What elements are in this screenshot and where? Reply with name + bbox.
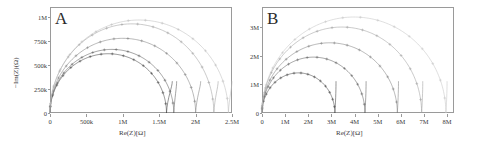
data-point-marker <box>331 26 334 29</box>
x-tick-label: 500k <box>80 118 93 125</box>
data-point-marker <box>325 58 328 61</box>
data-point-marker <box>79 60 82 63</box>
y-tick-label: 250k <box>28 85 47 92</box>
data-point-marker <box>144 19 147 22</box>
data-point-marker <box>211 98 214 101</box>
y-tick-label: 2M <box>240 52 259 59</box>
x-tick-mark <box>196 114 197 117</box>
data-point-marker <box>320 42 323 45</box>
x-tick-label: 2M <box>304 118 313 125</box>
data-point-marker <box>360 92 363 95</box>
data-point-marker <box>136 23 139 26</box>
data-point-marker <box>169 90 172 93</box>
x-tick-label: 5M <box>373 118 382 125</box>
data-point-marker <box>279 77 282 80</box>
data-point-marker <box>269 79 272 82</box>
data-point-marker <box>316 30 319 33</box>
y-tick-mark <box>48 89 51 90</box>
data-point-marker <box>111 52 114 55</box>
y-tick-label: 1M <box>28 13 47 20</box>
data-point-marker <box>395 101 398 104</box>
x-axis-title-b: Re(Z)[Ω] <box>336 129 363 137</box>
data-point-marker <box>89 55 92 58</box>
y-tick-mark <box>48 65 51 66</box>
x-tick-label: 0 <box>48 118 51 125</box>
data-point-marker <box>193 100 196 103</box>
data-point-marker <box>300 72 303 75</box>
y-tick-mark <box>48 17 51 18</box>
data-point-marker <box>226 97 229 100</box>
data-point-marker <box>293 72 296 75</box>
x-tick-mark <box>308 114 309 117</box>
data-point-marker <box>328 91 331 94</box>
x-tick-label: 1M <box>281 118 290 125</box>
data-point-marker <box>331 98 334 101</box>
x-tick-mark <box>355 114 356 117</box>
data-point-marker <box>222 80 225 83</box>
data-point-marker <box>375 34 378 37</box>
data-point-marker <box>335 61 338 64</box>
data-point-marker <box>287 63 290 66</box>
data-point-marker <box>356 83 359 86</box>
nyquist-tail <box>446 81 447 113</box>
x-tick-mark <box>447 114 448 117</box>
x-tick-mark <box>232 114 233 117</box>
data-point-marker <box>161 22 164 25</box>
panel-a: A 0250k500k750k1M 0500k1M1.5M2M2.5M −Im(… <box>0 0 239 143</box>
nyquist-tail <box>196 81 201 113</box>
x-tick-label: 3M <box>327 118 336 125</box>
data-point-marker <box>346 26 349 29</box>
data-point-marker <box>172 102 175 105</box>
nyquist-tail <box>422 81 423 113</box>
data-point-marker <box>127 19 130 22</box>
x-tick-label: 2.5M <box>225 118 239 125</box>
data-point-marker <box>103 48 106 51</box>
y-axis-title-a: −Im(Z)(Ω) <box>12 57 20 88</box>
nyquist-tail <box>166 81 172 113</box>
data-point-marker <box>110 23 113 26</box>
data-point-marker <box>214 64 217 67</box>
data-point-marker <box>302 36 305 39</box>
data-point-marker <box>157 81 160 84</box>
x-tick-label: 1M <box>118 118 127 125</box>
x-tick-label: 1.5M <box>152 118 166 125</box>
y-tick-mark <box>260 84 263 85</box>
x-tick-mark <box>50 114 51 117</box>
data-point-marker <box>295 50 298 53</box>
data-point-marker <box>122 54 125 57</box>
nyquist-tail <box>335 81 336 113</box>
data-point-marker <box>201 66 204 69</box>
nyquist-arc <box>262 17 446 113</box>
nyquist-tail <box>174 81 177 113</box>
data-point-marker <box>415 82 418 85</box>
data-point-marker <box>376 19 379 22</box>
data-point-marker <box>341 16 344 19</box>
data-point-marker <box>307 45 310 48</box>
data-point-marker <box>162 91 165 94</box>
data-point-marker <box>439 79 442 82</box>
data-point-marker <box>346 44 349 47</box>
x-tick-mark <box>86 114 87 117</box>
panel-b: B 01M2M3M 01M2M3M4M5M6M7M8M Re(Z)[Ω] <box>239 0 478 143</box>
data-point-marker <box>190 86 193 89</box>
x-tick-mark <box>424 114 425 117</box>
data-point-marker <box>113 37 116 40</box>
x-tick-label: 2M <box>191 118 200 125</box>
data-point-marker <box>361 29 364 32</box>
nyquist-arc <box>262 27 422 113</box>
data-point-marker <box>152 26 155 29</box>
nyquist-arc <box>50 49 174 113</box>
x-tick-mark <box>331 114 332 117</box>
x-tick-label: 6M <box>396 118 405 125</box>
data-point-marker <box>126 50 129 53</box>
data-point-marker <box>121 23 124 26</box>
data-point-marker <box>324 20 327 23</box>
figure-root: A 0250k500k750k1M 0500k1M1.5M2M2.5M −Im(… <box>0 0 478 143</box>
data-point-marker <box>140 39 143 42</box>
data-point-marker <box>91 51 94 54</box>
data-point-marker <box>132 58 135 61</box>
y-tick-label: 3M <box>240 24 259 31</box>
data-point-marker <box>126 37 129 40</box>
data-point-marker <box>153 44 156 47</box>
panel-letter-b: B <box>267 10 278 27</box>
